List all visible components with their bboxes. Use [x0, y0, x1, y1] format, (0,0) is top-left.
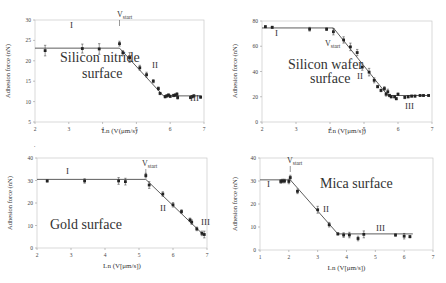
chart-panel-4: 0102030401234567Ln (V[μm/s])Adhesion for… [231, 155, 435, 272]
data-point [308, 28, 311, 31]
region-label: III [190, 93, 199, 103]
data-point [180, 210, 183, 213]
data-point [342, 234, 345, 237]
data-point [176, 96, 179, 99]
data-point [161, 193, 164, 196]
x-tick-label: 3 [67, 126, 70, 132]
vstart-label: Vstart [142, 159, 158, 169]
x-tick-label: 4 [104, 252, 107, 258]
y-tick-label: 60 [253, 43, 259, 49]
data-point [336, 233, 339, 236]
y-tick-label: 0 [255, 119, 258, 125]
data-point [414, 95, 417, 98]
y-tick-label: 10 [28, 223, 34, 229]
y-tick-label: 25 [26, 37, 32, 43]
surface-annotation: Gold surface [50, 217, 122, 232]
figure-canvas: 51015202530234567Ln (V(μm/s)Adhesion for… [0, 0, 446, 283]
data-point [83, 180, 86, 183]
data-point [419, 94, 422, 97]
vstart-label: Vstart [287, 156, 303, 166]
x-axis-label: Ln (V[μm/s]) [103, 262, 141, 270]
y-tick-label: 30 [26, 17, 32, 23]
y-tick-label: 20 [26, 58, 32, 64]
plot-area [37, 158, 207, 248]
x-tick-label: 5 [138, 252, 141, 258]
x-axis-label: Ln (V[μm/s]) [328, 127, 366, 135]
y-tick-label: 40 [253, 69, 259, 75]
data-point [287, 180, 290, 183]
x-tick-label: 6 [169, 126, 172, 132]
data-point [195, 227, 198, 230]
y-tick-label: 10 [251, 224, 257, 230]
data-point [271, 26, 274, 29]
x-tick-label: 2 [261, 126, 264, 132]
x-tick-label: 3 [70, 252, 73, 258]
x-tick-label: 6 [403, 254, 406, 260]
vstart-label: Vstart [325, 39, 341, 49]
data-point [368, 71, 371, 74]
data-point [376, 85, 379, 88]
surface-annotation: Silicon wafer [288, 57, 363, 72]
y-tick-label: 80 [253, 18, 259, 24]
data-point [342, 39, 345, 42]
x-tick-label: 6 [397, 126, 400, 132]
data-point [349, 45, 352, 48]
region-label: II [152, 60, 158, 70]
region-label: II [357, 71, 363, 81]
plot-area [260, 158, 433, 250]
y-axis-label: Adhesion force (nN) [4, 44, 12, 98]
data-point [46, 180, 49, 183]
region-label: I [66, 166, 69, 176]
data-point [356, 51, 359, 54]
x-tick-label: 7 [203, 126, 206, 132]
x-tick-label: 7 [432, 254, 435, 260]
x-tick-label: 7 [431, 126, 434, 132]
data-point [328, 223, 331, 226]
y-tick-label: 30 [28, 178, 34, 184]
chart-panel-2: 020406080234567Ln (V[μm/s])Adhesion forc… [231, 18, 434, 135]
x-tick-label: 6 [172, 252, 175, 258]
data-point [373, 79, 376, 82]
data-point [409, 235, 412, 238]
data-point [316, 208, 319, 211]
data-point [357, 237, 360, 240]
x-tick-label: 7 [206, 252, 209, 258]
x-tick-label: 2 [287, 254, 290, 260]
y-axis-label: Adhesion force (nN) [231, 44, 239, 98]
x-axis-label: Ln (V[μm/s]) [328, 264, 366, 272]
region-label: II [323, 204, 329, 214]
y-tick-label: 15 [26, 78, 32, 84]
x-axis-label: Ln (V(μm/s) [102, 127, 138, 135]
y-tick-label: 20 [251, 201, 257, 207]
data-point [380, 89, 383, 92]
data-point [386, 90, 389, 93]
y-tick-label: 40 [28, 155, 34, 161]
data-point [394, 234, 397, 237]
data-point [264, 25, 267, 28]
data-point [362, 233, 365, 236]
data-point [390, 95, 393, 98]
data-point [148, 184, 151, 187]
region-label: II [160, 203, 166, 213]
data-point [44, 49, 47, 52]
data-point [410, 95, 413, 98]
data-point [190, 221, 193, 224]
data-point [199, 96, 202, 99]
y-tick-label: 0 [253, 247, 256, 253]
region-label: I [267, 179, 270, 189]
x-tick-label: 3 [295, 126, 298, 132]
y-axis-label: Adhesion force (nN) [231, 177, 239, 231]
y-axis-label: Adhesion force (nN) [6, 176, 14, 230]
data-point [289, 176, 292, 179]
data-point [152, 80, 155, 83]
data-point [403, 235, 406, 238]
y-tick-label: 5 [28, 119, 31, 125]
x-tick-label: 4 [345, 254, 348, 260]
chart-panel-1: 51015202530234567Ln (V(μm/s)Adhesion for… [4, 10, 206, 135]
x-tick-label: 2 [34, 126, 37, 132]
surface-annotation: surface [82, 66, 122, 81]
y-tick-label: 20 [253, 94, 259, 100]
data-point [403, 96, 406, 99]
data-point [203, 233, 206, 236]
region-label: I [70, 20, 73, 30]
